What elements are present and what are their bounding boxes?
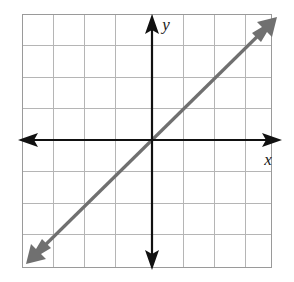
graph-canvas: y x [0,0,294,282]
y-axis-label: y [160,15,170,34]
coordinate-plane-figure: y x [0,0,294,282]
x-axis-label: x [263,150,272,169]
